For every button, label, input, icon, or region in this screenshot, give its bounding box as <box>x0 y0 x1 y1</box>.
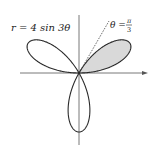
theta-label: θ = <box>110 20 126 30</box>
x-axis-arrowhead-icon <box>142 71 148 75</box>
polar-rose-diagram: r = 4 sin 3θ θ = π 3 <box>0 0 158 156</box>
theta-label-denominator: 3 <box>127 26 131 34</box>
equation-label: r = 4 sin 3θ <box>11 22 70 33</box>
theta-label-numerator: π <box>126 17 132 25</box>
shaded-petal-region <box>79 40 131 73</box>
